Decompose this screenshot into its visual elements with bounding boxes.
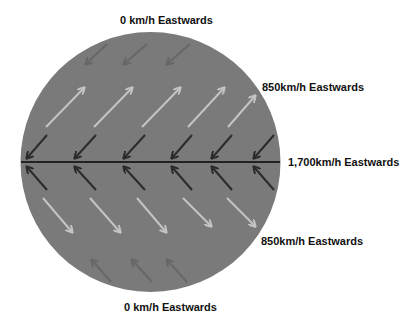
label-top-pole-speed: 0 km/h Eastwards (120, 14, 213, 27)
label-upper-mid-latitude-speed: 850km/h Eastwards (262, 81, 364, 94)
label-equator-speed: 1,700km/h Eastwards (288, 156, 399, 169)
label-lower-mid-latitude-speed: 850km/h Eastwards (261, 235, 363, 248)
label-bottom-pole-speed: 0 km/h Eastwards (124, 301, 217, 314)
